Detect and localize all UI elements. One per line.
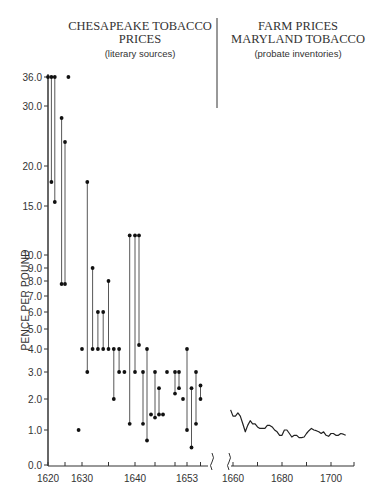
data-point xyxy=(137,343,141,347)
data-point xyxy=(112,347,116,351)
tobacco-price-chart: 36.030.020.015.010.09.08.07.06.05.04.03.… xyxy=(0,0,368,492)
data-point xyxy=(141,422,145,426)
y-tick-label: 7.0 xyxy=(28,291,42,302)
data-point xyxy=(85,180,89,184)
y-tick-label: 30.0 xyxy=(23,101,43,112)
y-tick-label: 10.0 xyxy=(23,250,43,261)
y-tick-label: 5.0 xyxy=(28,324,42,335)
data-point xyxy=(145,439,149,443)
x-tick-label: 1620 xyxy=(37,473,60,484)
data-point xyxy=(165,370,169,374)
data-point xyxy=(80,347,84,351)
data-point xyxy=(194,422,198,426)
y-tick-label: 6.0 xyxy=(28,307,42,318)
data-point xyxy=(46,75,50,79)
y-tick-label: 0.0 xyxy=(28,460,42,471)
data-point xyxy=(157,386,161,390)
x-tick-label: 1700 xyxy=(320,473,343,484)
data-point xyxy=(133,234,137,238)
x-tick-label: 1660 xyxy=(222,473,245,484)
data-point xyxy=(149,413,153,417)
data-point xyxy=(123,370,127,374)
data-point xyxy=(145,347,149,351)
x-tick-label: 1653 xyxy=(176,473,199,484)
data-point xyxy=(117,370,121,374)
data-point xyxy=(53,75,57,79)
data-point xyxy=(63,140,67,144)
data-point xyxy=(133,370,137,374)
farm-price-line xyxy=(231,410,346,438)
data-point xyxy=(173,370,177,374)
y-tick-label: 9.0 xyxy=(28,263,42,274)
data-point xyxy=(112,397,116,401)
data-point xyxy=(60,116,64,120)
data-point xyxy=(173,392,177,396)
data-point xyxy=(137,234,141,238)
y-tick-label: 36.0 xyxy=(23,72,43,83)
data-point xyxy=(77,428,81,432)
data-point xyxy=(153,416,157,420)
y-tick-label: 20.0 xyxy=(23,161,43,172)
data-point xyxy=(185,347,189,351)
data-point xyxy=(177,370,181,374)
data-point xyxy=(96,347,100,351)
x-tick-label: 1680 xyxy=(271,473,294,484)
data-point xyxy=(185,428,189,432)
data-point xyxy=(107,347,111,351)
data-point xyxy=(91,266,95,270)
y-tick-label: 8.0 xyxy=(28,276,42,287)
axis-break-icon xyxy=(211,453,214,470)
data-point xyxy=(85,370,89,374)
y-tick-label: 2.0 xyxy=(28,394,42,405)
data-point xyxy=(63,282,67,286)
data-point xyxy=(181,397,185,401)
y-tick-label: 15.0 xyxy=(23,201,43,212)
y-tick-label: 4.0 xyxy=(28,344,42,355)
data-point xyxy=(50,75,54,79)
data-point xyxy=(101,310,105,314)
data-point xyxy=(91,347,95,351)
data-point xyxy=(153,370,157,374)
data-point xyxy=(101,347,105,351)
y-tick-label: 3.0 xyxy=(28,367,42,378)
data-point xyxy=(157,413,161,417)
data-point xyxy=(194,370,198,374)
data-point xyxy=(141,370,145,374)
data-point xyxy=(190,386,194,390)
data-point xyxy=(177,386,181,390)
data-point xyxy=(60,282,64,286)
data-point xyxy=(161,413,165,417)
data-point xyxy=(50,180,54,184)
data-point xyxy=(96,310,100,314)
data-point xyxy=(67,75,71,79)
y-tick-label: 1.0 xyxy=(28,425,42,436)
data-point xyxy=(107,279,111,283)
x-tick-label: 1640 xyxy=(124,473,147,484)
data-point xyxy=(199,397,203,401)
x-tick-label: 1630 xyxy=(71,473,94,484)
data-point xyxy=(53,200,57,204)
data-point xyxy=(128,234,132,238)
data-point xyxy=(190,446,194,450)
axis-break-icon xyxy=(228,453,231,470)
data-point xyxy=(199,384,203,388)
data-point xyxy=(117,347,121,351)
data-point xyxy=(128,422,132,426)
